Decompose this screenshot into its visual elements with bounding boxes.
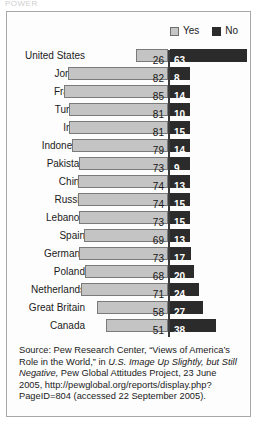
- bar-no: 15: [170, 121, 190, 134]
- legend-item-yes: Yes: [170, 26, 199, 36]
- diverging-bar-chart: United States2663Jordan828France8514Turk…: [7, 47, 250, 337]
- bar-no: 17: [170, 247, 191, 260]
- bar-yes: 74: [78, 193, 168, 206]
- chart-row: Spain6913: [7, 227, 250, 245]
- country-label: Great Britain: [7, 302, 85, 314]
- country-label: United States: [7, 50, 85, 62]
- bar-yes: 73: [79, 157, 168, 170]
- chart-row: Canada5138: [7, 317, 250, 335]
- legend-swatch-yes-icon: [170, 27, 179, 36]
- chart-row: Indonesia7914: [7, 137, 250, 155]
- bar-no: 20: [170, 265, 194, 278]
- bar-yes: 58: [97, 301, 168, 314]
- country-label: Spain: [7, 230, 85, 242]
- bar-yes: 79: [72, 139, 168, 152]
- chart-row: France8514: [7, 83, 250, 101]
- bar-no: 27: [170, 301, 203, 314]
- country-label: China: [7, 176, 85, 188]
- legend-label-yes: Yes: [183, 26, 199, 36]
- chart-row: Germany7317: [7, 245, 250, 263]
- chart-row: United States2663: [7, 47, 250, 65]
- chart-row: Jordan828: [7, 65, 250, 83]
- bar-yes: 81: [69, 121, 168, 134]
- legend-swatch-no-icon: [212, 27, 221, 36]
- country-label: Canada: [7, 320, 85, 332]
- country-label: Lebanon: [7, 212, 85, 224]
- legend-item-no: No: [212, 26, 238, 36]
- bar-no: 14: [170, 139, 190, 152]
- bar-no: 15: [170, 193, 190, 206]
- bar-yes: 71: [81, 283, 168, 296]
- bar-yes: 69: [84, 229, 168, 242]
- top-text-fragment: POWER: [5, 0, 65, 7]
- bar-no: 8: [170, 67, 190, 80]
- country-label: Russia: [7, 194, 85, 206]
- chart-row: Lebanon7315: [7, 209, 250, 227]
- bar-yes: 82: [68, 67, 168, 80]
- country-label: Germany: [7, 248, 85, 260]
- bar-yes: 85: [64, 85, 168, 98]
- bar-no: 14: [170, 85, 190, 98]
- bar-yes: 26: [136, 49, 168, 62]
- bar-no: 13: [170, 229, 190, 242]
- chart-row: Russia7415: [7, 191, 250, 209]
- chart-row: Turkey8110: [7, 101, 250, 119]
- country-label: Pakistan: [7, 158, 85, 170]
- chart-rows: United States2663Jordan828France8514Turk…: [7, 47, 250, 335]
- bar-no: 9: [170, 157, 190, 170]
- chart-row: Netherlands7124: [7, 281, 250, 299]
- bar-value-yes: 51: [153, 325, 167, 336]
- bar-no: 38: [170, 319, 216, 332]
- bar-no: 24: [170, 283, 199, 296]
- bar-no: 13: [170, 175, 190, 188]
- country-label: Poland: [7, 266, 85, 278]
- bar-no: 10: [170, 103, 190, 116]
- bar-yes: 73: [79, 211, 168, 224]
- bar-yes: 73: [79, 247, 168, 260]
- bar-no: 15: [170, 211, 190, 224]
- chart-row: Great Britain5827: [7, 299, 250, 317]
- bar-yes: 74: [78, 175, 168, 188]
- chart-legend: Yes No: [170, 26, 238, 36]
- bar-yes: 51: [106, 319, 168, 332]
- chart-row: Pakistan739: [7, 155, 250, 173]
- bar-yes: 81: [69, 103, 168, 116]
- bar-no: 63: [170, 49, 247, 62]
- bar-yes: 68: [85, 265, 168, 278]
- chart-row: Poland6820: [7, 263, 250, 281]
- figure-container: Yes No United States2663Jordan828France8…: [6, 11, 251, 417]
- bar-value-no: 38: [171, 325, 185, 336]
- legend-label-no: No: [225, 26, 238, 36]
- chart-row: India8115: [7, 119, 250, 137]
- source-citation: Source: Pew Research Center, “Views of A…: [19, 345, 240, 403]
- chart-row: China7413: [7, 173, 250, 191]
- country-label: Netherlands: [7, 284, 85, 296]
